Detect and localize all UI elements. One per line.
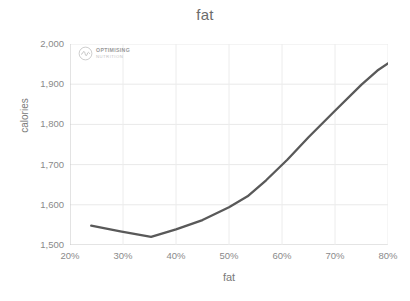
y-tick-label: 1,800 xyxy=(28,119,64,129)
x-axis-title: fat xyxy=(70,271,388,283)
logo-secondary-text: NUTRITION xyxy=(96,55,130,59)
plot-area: OPTIMISING NUTRITION xyxy=(70,44,388,245)
vertical-gridlines xyxy=(70,44,388,245)
x-tick-label: 60% xyxy=(262,250,302,261)
x-tick-label: 70% xyxy=(315,250,355,261)
optimising-nutrition-mark-icon xyxy=(78,46,93,61)
y-tick-label: 1,900 xyxy=(28,79,64,89)
x-tick-label: 50% xyxy=(209,250,249,261)
y-tick-label: 1,700 xyxy=(28,160,64,170)
x-tick-label: 30% xyxy=(103,250,143,261)
data-series-line xyxy=(91,56,388,237)
logo-text-block: OPTIMISING NUTRITION xyxy=(96,48,130,58)
plot-svg xyxy=(70,44,388,245)
y-tick-label: 1,500 xyxy=(28,240,64,250)
y-tick-label: 2,000 xyxy=(28,39,64,49)
y-tick-label: 1,600 xyxy=(28,200,64,210)
logo-primary-text: OPTIMISING xyxy=(96,48,130,53)
x-tick-label: 20% xyxy=(50,250,90,261)
x-tick-label: 80% xyxy=(368,250,408,261)
chart-container: fat calories 1,5001,6001,7001,8001,9002,… xyxy=(0,0,410,301)
optimising-nutrition-logo: OPTIMISING NUTRITION xyxy=(78,46,130,61)
x-tick-label: 40% xyxy=(156,250,196,261)
